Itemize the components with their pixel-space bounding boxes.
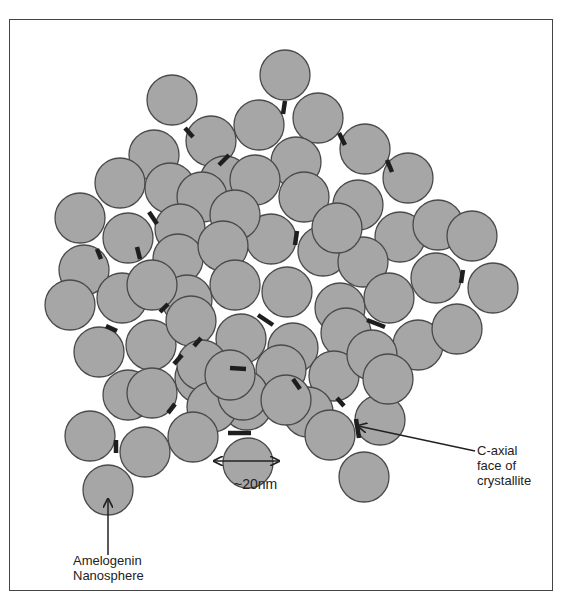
label-line: face of bbox=[477, 458, 531, 473]
crystallite-rod bbox=[149, 212, 157, 224]
nanosphere bbox=[432, 304, 482, 354]
c-axial-face-label: C-axial face of crystallite bbox=[477, 443, 531, 488]
nanosphere bbox=[468, 263, 518, 313]
nanosphere bbox=[103, 213, 153, 263]
nanosphere bbox=[339, 452, 389, 502]
nanosphere bbox=[166, 296, 216, 346]
nanosphere bbox=[305, 410, 355, 460]
crystallite-rod bbox=[137, 247, 140, 259]
nanosphere bbox=[293, 93, 343, 143]
label-line: Amelogenin bbox=[73, 553, 144, 568]
nanosphere bbox=[260, 50, 310, 100]
crystallite-rod bbox=[356, 419, 359, 438]
label-line: C-axial bbox=[477, 443, 531, 458]
nanosphere bbox=[363, 354, 413, 404]
nanosphere bbox=[447, 211, 497, 261]
nanosphere bbox=[74, 327, 124, 377]
crystallite-rod bbox=[283, 101, 285, 114]
nanosphere bbox=[234, 100, 284, 150]
nanosphere bbox=[312, 203, 362, 253]
crystallite-rod bbox=[230, 368, 246, 369]
crystallite-rod bbox=[295, 231, 297, 245]
nanosphere bbox=[65, 411, 115, 461]
crystallite-rod bbox=[461, 270, 463, 283]
nanosphere bbox=[55, 193, 105, 243]
nanosphere bbox=[120, 427, 170, 477]
nanosphere bbox=[411, 253, 461, 303]
nanosphere bbox=[261, 375, 311, 425]
nanosphere bbox=[340, 124, 390, 174]
nanosphere bbox=[383, 153, 433, 203]
nanosphere bbox=[147, 75, 197, 125]
label-line: crystallite bbox=[477, 473, 531, 488]
label-line: Nanosphere bbox=[73, 568, 144, 583]
nanosphere bbox=[127, 260, 177, 310]
nanosphere bbox=[95, 158, 145, 208]
nanosphere bbox=[205, 350, 255, 400]
nanosphere bbox=[168, 412, 218, 462]
scale-bar-label: ~20nm bbox=[234, 477, 277, 492]
nanosphere bbox=[364, 273, 414, 323]
nanosphere bbox=[45, 280, 95, 330]
nanosphere-diagram bbox=[0, 0, 567, 603]
amelogenin-nanosphere-label: Amelogenin Nanosphere bbox=[73, 553, 144, 583]
nanosphere bbox=[262, 267, 312, 317]
nanosphere bbox=[210, 260, 260, 310]
